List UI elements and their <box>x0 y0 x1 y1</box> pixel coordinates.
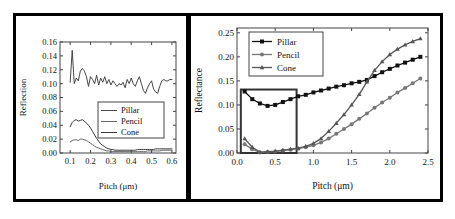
svg-text:Pencil: Pencil <box>277 50 300 60</box>
svg-text:0.15: 0.15 <box>218 76 234 86</box>
svg-text:Pillar: Pillar <box>277 37 297 47</box>
inset-detail-panel: 0.10.20.30.40.50.60.000.020.040.060.080.… <box>13 13 189 202</box>
svg-text:Cone: Cone <box>277 63 296 73</box>
svg-text:2.5: 2.5 <box>422 157 434 167</box>
svg-text:Cone: Cone <box>121 127 139 137</box>
svg-text:Pillar: Pillar <box>121 105 140 115</box>
inset-chart: 0.10.20.30.40.50.60.000.020.040.060.080.… <box>16 16 186 199</box>
svg-text:0.08: 0.08 <box>42 92 57 102</box>
svg-text:Reflection: Reflection <box>18 78 28 116</box>
svg-text:0.16: 0.16 <box>42 37 57 47</box>
svg-text:0.25: 0.25 <box>218 28 234 38</box>
main-plot-panel: 0.00.51.01.52.02.50.000.050.100.150.200.… <box>188 13 443 202</box>
figure-root: 0.10.20.30.40.50.60.000.020.040.060.080.… <box>0 0 455 219</box>
svg-text:0.3: 0.3 <box>106 156 117 166</box>
svg-text:0.05: 0.05 <box>218 124 234 134</box>
svg-text:0.02: 0.02 <box>42 134 57 144</box>
svg-text:0.0: 0.0 <box>231 157 243 167</box>
svg-text:Pencil: Pencil <box>121 116 143 126</box>
svg-text:0.04: 0.04 <box>42 120 58 130</box>
svg-text:Pitch (μm): Pitch (μm) <box>312 181 353 192</box>
svg-text:2.0: 2.0 <box>384 157 396 167</box>
svg-text:0.10: 0.10 <box>42 79 57 89</box>
svg-text:0.20: 0.20 <box>218 52 234 62</box>
svg-text:0.2: 0.2 <box>85 156 96 166</box>
svg-text:0.5: 0.5 <box>146 156 157 166</box>
svg-text:0.10: 0.10 <box>218 100 234 110</box>
svg-text:0.4: 0.4 <box>126 156 137 166</box>
svg-text:0.06: 0.06 <box>42 106 57 116</box>
svg-text:0.1: 0.1 <box>65 156 76 166</box>
svg-text:1.5: 1.5 <box>346 157 358 167</box>
svg-text:Reflectance: Reflectance <box>194 68 204 113</box>
svg-text:0.6: 0.6 <box>167 156 178 166</box>
main-chart: 0.00.51.01.52.02.50.000.050.100.150.200.… <box>191 16 440 199</box>
svg-text:0.00: 0.00 <box>42 148 57 158</box>
svg-text:1.0: 1.0 <box>308 157 320 167</box>
svg-text:0.14: 0.14 <box>42 51 58 61</box>
svg-text:0.00: 0.00 <box>218 148 234 158</box>
svg-text:0.12: 0.12 <box>42 65 57 75</box>
svg-text:0.5: 0.5 <box>270 157 282 167</box>
svg-text:Pitch (μm): Pitch (μm) <box>99 181 138 191</box>
